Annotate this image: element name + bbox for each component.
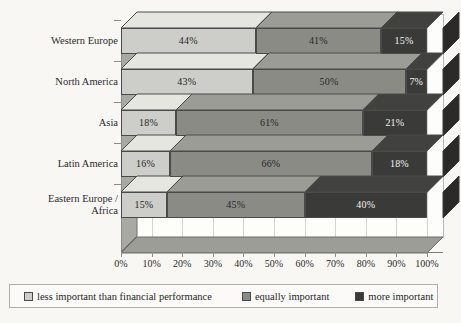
- gridline: [427, 15, 428, 237]
- y-axis-category-line: Latin America: [10, 158, 118, 170]
- x-axis-tick: [427, 252, 428, 257]
- bar-value-label: 15%: [381, 28, 427, 54]
- y-axis-category-label: Western Europe: [10, 35, 118, 47]
- x-axis-tick: [182, 252, 183, 257]
- y-axis-tick: [114, 102, 121, 103]
- bar-segment: 18%: [121, 110, 176, 136]
- bar-segment: 7%: [406, 69, 427, 95]
- bar-row: 16%66%18%: [121, 151, 427, 177]
- bar-segment: 61%: [176, 110, 363, 136]
- x-axis-tick-label: 90%: [379, 258, 413, 269]
- legend-label-equally-important: equally important: [255, 291, 329, 302]
- y-axis-category-line: Western Europe: [10, 35, 118, 47]
- bar-value-label: 15%: [121, 192, 167, 218]
- chart-legend: less important than financial performanc…: [9, 284, 438, 308]
- bar-value-label: 66%: [170, 151, 372, 177]
- bar-segment: 44%: [121, 28, 256, 54]
- bar-value-label: 16%: [121, 151, 170, 177]
- y-axis-tick: [114, 143, 121, 144]
- bar-value-label: 7%: [406, 69, 427, 95]
- bar-segment: 40%: [305, 192, 427, 218]
- bar-value-label: 40%: [305, 192, 427, 218]
- x-axis-tick-label: 80%: [349, 258, 383, 269]
- legend-swatch-less-important: [24, 292, 33, 301]
- y-axis-category-line: Africa: [10, 205, 118, 217]
- bar-row: 15%45%40%: [121, 192, 427, 218]
- x-axis-tick: [274, 252, 275, 257]
- y-axis-category-label: Asia: [10, 117, 118, 129]
- bar-segment: 50%: [253, 69, 406, 95]
- x-axis-tick-label: 50%: [257, 258, 291, 269]
- x-axis-tick: [335, 252, 336, 257]
- legend-item-equally-important: equally important: [242, 291, 329, 302]
- y-axis-category-label: Eastern Europe /Africa: [10, 193, 118, 217]
- y-axis-category-line: North America: [10, 76, 118, 88]
- x-axis-tick: [366, 252, 367, 257]
- bar-value-label: 50%: [253, 69, 406, 95]
- bar-segment: 16%: [121, 151, 170, 177]
- bar-segment: 66%: [170, 151, 372, 177]
- y-axis-category-line: Asia: [10, 117, 118, 129]
- bar-segment: 21%: [363, 110, 427, 136]
- bar-segment: 41%: [256, 28, 381, 54]
- legend-item-more-important: more important: [355, 291, 433, 302]
- x-axis-tick-label: 30%: [196, 258, 230, 269]
- legend-label-more-important: more important: [368, 291, 433, 302]
- bar-value-label: 43%: [121, 69, 253, 95]
- plot-floor: [121, 236, 443, 253]
- bar-segment: 45%: [167, 192, 305, 218]
- bar-value-label: 45%: [167, 192, 305, 218]
- y-axis-category-label: Latin America: [10, 158, 118, 170]
- bar-value-label: 18%: [372, 151, 427, 177]
- x-axis-tick: [121, 252, 122, 257]
- x-axis-tick-label: 100%: [410, 258, 444, 269]
- x-axis-line: [121, 252, 443, 253]
- x-axis-tick-label: 60%: [288, 258, 322, 269]
- legend-label-less-important: less important than financial performanc…: [37, 291, 212, 302]
- legend-swatch-equally-important: [242, 292, 251, 301]
- y-axis-tick: [114, 184, 121, 185]
- bar-value-label: 41%: [256, 28, 381, 54]
- x-axis-tick-label: 70%: [318, 258, 352, 269]
- x-axis-tick-label: 40%: [226, 258, 260, 269]
- bar-segment: 18%: [372, 151, 427, 177]
- y-axis-tick: [114, 20, 121, 21]
- bar-segment: 43%: [121, 69, 253, 95]
- bar-row: 43%50%7%: [121, 69, 427, 95]
- bar-value-label: 61%: [176, 110, 363, 136]
- x-axis-tick-label: 20%: [165, 258, 199, 269]
- y-axis-category-line: Eastern Europe /: [10, 193, 118, 205]
- y-axis-labels: Western EuropeNorth AmericaAsiaLatin Ame…: [0, 0, 118, 260]
- bar-value-label: 21%: [363, 110, 427, 136]
- bar-value-label: 44%: [121, 28, 256, 54]
- y-axis-category-label: North America: [10, 76, 118, 88]
- bar-value-label: 18%: [121, 110, 176, 136]
- bar-segment: 15%: [381, 28, 427, 54]
- x-axis-tick: [243, 252, 244, 257]
- bar-row: 44%41%15%: [121, 28, 427, 54]
- legend-item-less-important: less important than financial performanc…: [24, 291, 212, 302]
- bar-segment: 15%: [121, 192, 167, 218]
- x-axis-tick: [152, 252, 153, 257]
- x-axis-tick: [213, 252, 214, 257]
- x-axis-tick-label: 10%: [135, 258, 169, 269]
- x-axis-tick: [396, 252, 397, 257]
- bar-row: 18%61%21%: [121, 110, 427, 136]
- x-axis-tick-label: 0%: [104, 258, 138, 269]
- x-axis-tick: [305, 252, 306, 257]
- legend-swatch-more-important: [355, 292, 364, 301]
- y-axis-tick: [114, 61, 121, 62]
